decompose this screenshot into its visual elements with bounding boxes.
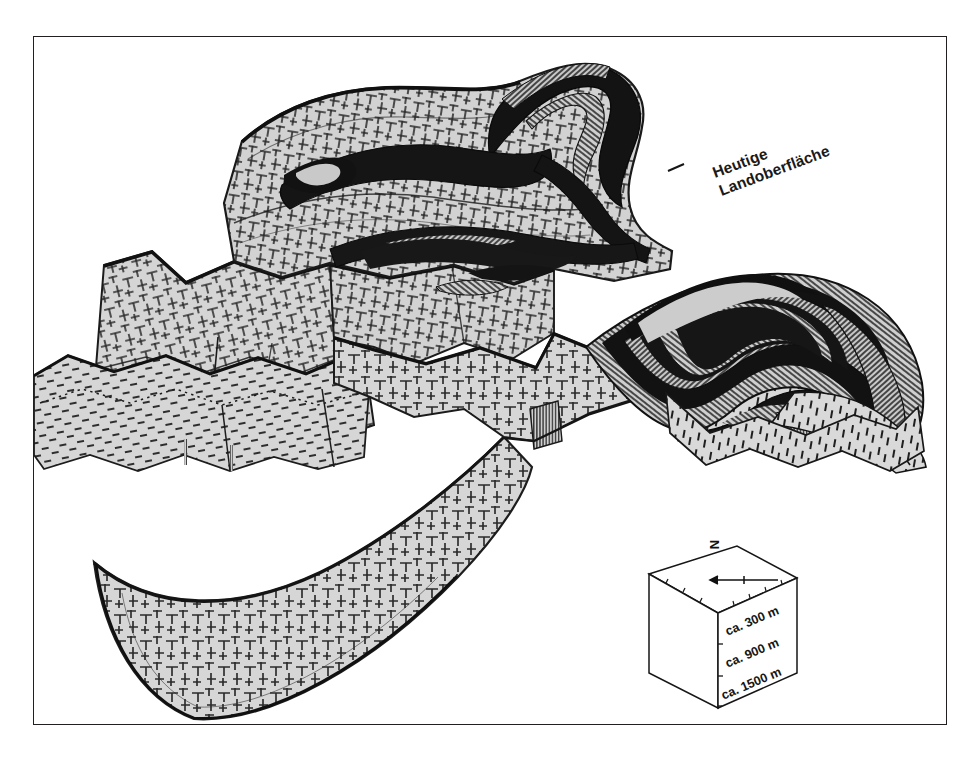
figure-frame: Heutige Landoberfläche N ca. 300 m ca. 9… (33, 36, 947, 725)
rock-body-lower-lobe (94, 437, 532, 719)
north-letter-label: N (707, 540, 722, 549)
rock-body-left-step-block (34, 355, 370, 471)
leader-line-surface-label (668, 164, 684, 171)
geological-block-diagram: Heutige Landoberfläche N ca. 300 m ca. 9… (0, 0, 972, 759)
